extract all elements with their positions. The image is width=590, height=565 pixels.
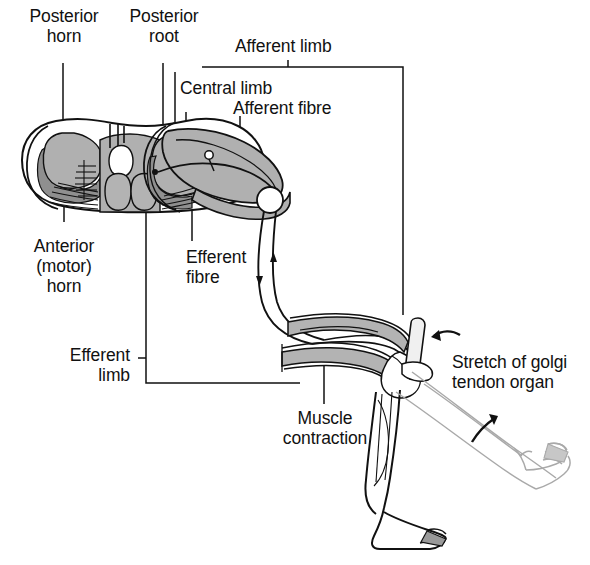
- label-stretch-of-golgi-tendon-organ: Stretch of golgi tendon organ: [452, 352, 567, 392]
- synapse-dot: [152, 169, 158, 175]
- label-afferent-limb: Afferent limb: [235, 36, 332, 56]
- arrowhead-afferent-up: [270, 252, 277, 262]
- thigh-and-muscles: [282, 314, 432, 398]
- arrowhead-efferent-down: [256, 276, 263, 286]
- column-b: [105, 174, 131, 211]
- label-anterior-motor-horn: Anterior (motor) horn: [8, 236, 120, 296]
- figure-canvas: Posterior horn Posterior root Afferent l…: [0, 0, 590, 565]
- tendon-band: [402, 362, 432, 381]
- label-efferent-fibre: Efferent fibre: [186, 247, 246, 287]
- label-posterior-root: Posterior root: [112, 6, 216, 46]
- label-central-limb: Central limb: [180, 78, 272, 98]
- nerve-junction-loop: [257, 187, 283, 213]
- label-efferent-limb: Efferent limb: [12, 345, 130, 385]
- label-afferent-fibre: Afferent fibre: [233, 98, 331, 118]
- grey-matter-left: [43, 133, 100, 188]
- arrow-extension-head: [489, 414, 498, 425]
- label-muscle-contraction: Muscle contraction: [270, 408, 380, 448]
- label-posterior-horn: Posterior horn: [10, 6, 118, 46]
- bracket-efferent-limb: [146, 210, 300, 383]
- white-column-a: [109, 146, 133, 177]
- sensory-cell-body: [205, 151, 213, 159]
